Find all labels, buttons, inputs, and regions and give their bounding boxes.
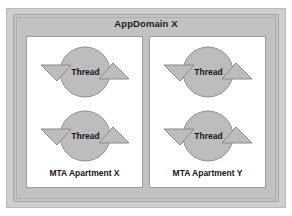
thread-label: Thread [71, 131, 99, 141]
apartment-group: Thread Thread MTA Apartment X [26, 36, 266, 188]
apartment-label-y: MTA Apartment Y [173, 168, 243, 187]
thread-node-y-1: Thread [156, 46, 260, 98]
thread-node-x-2: Thread [33, 110, 137, 162]
apartment-panel-y: Thread Thread MTA Apartment Y [149, 36, 266, 188]
diagram-canvas: AppDomain X Thread [0, 0, 292, 216]
apartment-panel-x: Thread Thread MTA Apartment X [26, 36, 143, 188]
apartment-label-x: MTA Apartment X [49, 168, 119, 187]
thread-label: Thread [194, 131, 222, 141]
thread-node-x-1: Thread [33, 46, 137, 98]
appdomain-title: AppDomain X [0, 18, 292, 29]
thread-label: Thread [71, 67, 99, 77]
thread-stack-x: Thread Thread [27, 37, 142, 168]
thread-label: Thread [194, 67, 222, 77]
thread-stack-y: Thread Thread [150, 37, 265, 168]
thread-node-y-2: Thread [156, 110, 260, 162]
